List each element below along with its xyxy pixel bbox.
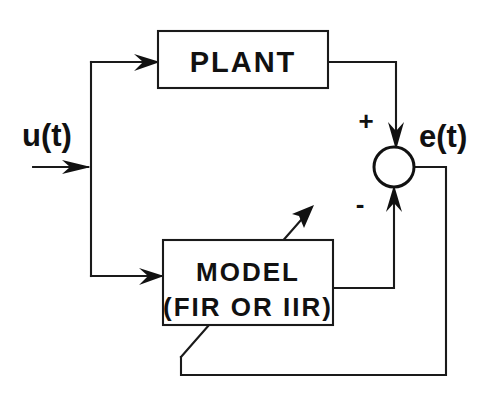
arrowhead-adaptation bbox=[292, 205, 314, 228]
block-diagram-svg: PLANT MODEL (FIR OR IIR) + - u(t) e(t) bbox=[0, 0, 495, 403]
input-signal-label: u(t) bbox=[22, 118, 72, 153]
plant-block-label: PLANT bbox=[190, 46, 297, 78]
model-block-label-line1: MODEL bbox=[196, 257, 300, 287]
summing-junction-plus-sign: + bbox=[358, 106, 373, 136]
error-signal-label: e(t) bbox=[419, 119, 467, 154]
model-block-label-line2: (FIR OR IIR) bbox=[163, 292, 333, 322]
summing-junction[interactable] bbox=[374, 147, 414, 187]
summing-junction-minus-sign: - bbox=[356, 189, 365, 219]
block-diagram-canvas: PLANT MODEL (FIR OR IIR) + - u(t) e(t) bbox=[0, 0, 495, 403]
